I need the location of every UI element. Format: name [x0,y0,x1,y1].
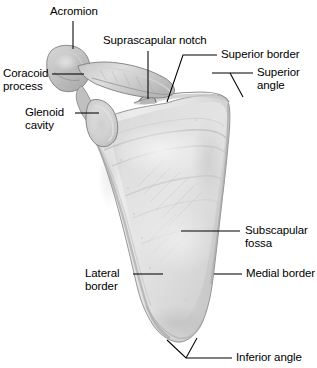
fossa-highlight-lower [144,206,216,274]
label-suprascapular-notch: Suprascapular notch [103,34,207,47]
label-glenoid-cavity-line2: cavity [25,119,54,132]
inferior-angle-shadow [145,306,205,338]
label-superior-angle-line1: Superior [257,66,300,79]
leader-inferior-angle-a [167,340,232,358]
label-superior-border: Superior border [221,48,299,61]
fossa-highlight-upper [114,124,206,176]
label-lateral-border-line1: Lateral [85,267,119,280]
label-acromion: Acromion [50,5,98,18]
acromion-gloss [54,53,78,71]
label-glenoid-cavity-line1: Glenoid [25,106,64,119]
label-lateral-border-line2: border [85,280,118,293]
label-coracoid-process-line1: Coracoid [3,67,48,80]
scapula-figure: Acromion Suprascapular notch Superior bo… [0,0,317,368]
label-superior-angle-line2: angle [257,79,285,92]
lateral-shadow [98,139,122,211]
glenoid-cavity [86,99,118,146]
label-subscapular-fossa-line1: Subscapular [245,224,308,237]
label-coracoid-process-line2: process [3,80,43,93]
medial-shadow [192,116,224,204]
glenoid-hollow [93,108,109,136]
label-medial-border: Medial border [246,267,315,280]
leader-inferior-angle-b [186,338,197,358]
leader-superior-angle-d [230,73,243,97]
label-subscapular-fossa-line2: fossa [245,237,272,250]
label-inferior-angle: Inferior angle [236,351,302,364]
